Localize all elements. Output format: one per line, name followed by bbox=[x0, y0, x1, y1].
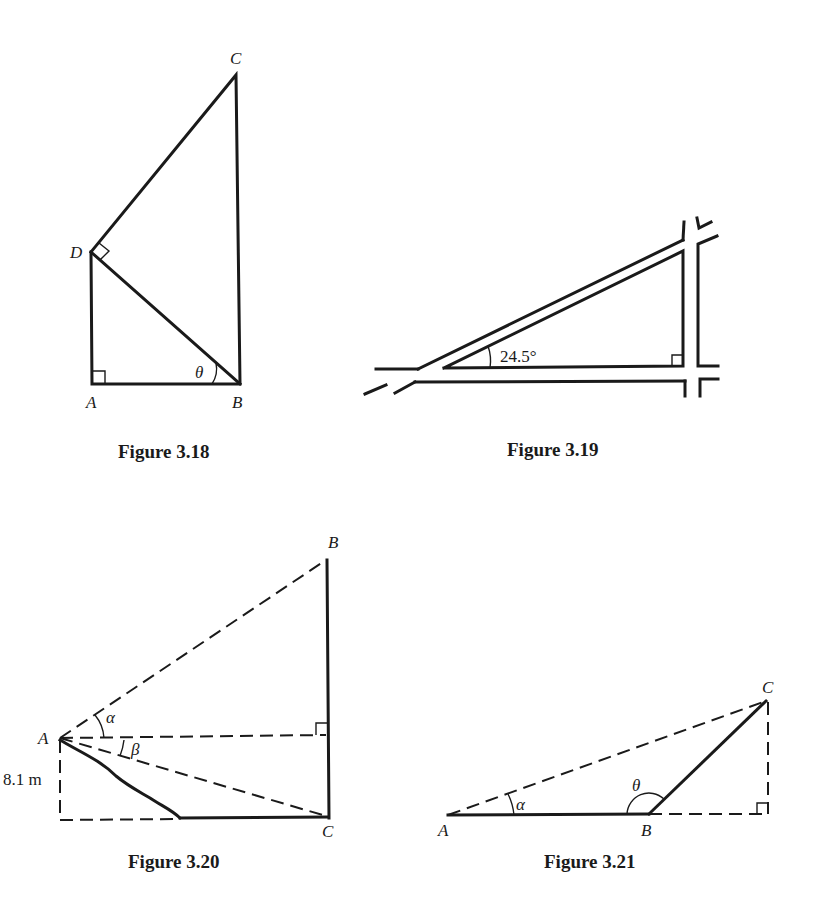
horizontal-line bbox=[60, 735, 326, 738]
vertex-label-c: C bbox=[322, 822, 334, 841]
angle-arc-theta bbox=[212, 363, 217, 384]
line-of-sight-ac bbox=[60, 738, 326, 816]
figures-canvas: C D A B θ Figure 3.18 24.5° Figure 3.19 bbox=[0, 0, 822, 900]
vertex-label-a: A bbox=[85, 393, 97, 412]
figure-3-19: 24.5° Figure 3.19 bbox=[365, 218, 718, 460]
quadrilateral-abcd bbox=[91, 75, 240, 384]
vertex-label-b: B bbox=[641, 821, 652, 840]
road-edge bbox=[683, 222, 684, 240]
vertex-label-c: C bbox=[230, 49, 242, 68]
ground-line bbox=[60, 819, 180, 820]
angle-label-24-5: 24.5° bbox=[500, 347, 537, 366]
figure-3-21: C A B α θ Figure 3.21 bbox=[437, 678, 774, 872]
tower-bc bbox=[327, 560, 329, 818]
road-edge bbox=[700, 379, 718, 396]
angle-label-theta: θ bbox=[632, 776, 640, 795]
figure-3-18: C D A B θ Figure 3.18 bbox=[69, 49, 243, 462]
vertex-label-b: B bbox=[328, 533, 339, 552]
figure-caption: Figure 3.21 bbox=[544, 851, 635, 872]
road-edge bbox=[395, 382, 415, 393]
height-label: 8.1 m bbox=[3, 770, 42, 789]
triangle-block bbox=[444, 251, 683, 368]
right-angle-marker bbox=[757, 803, 768, 814]
segment-ab bbox=[448, 814, 649, 815]
road-edge bbox=[697, 218, 711, 228]
figure-caption: Figure 3.19 bbox=[507, 439, 598, 460]
line-of-sight-ab bbox=[60, 560, 326, 738]
road-edge bbox=[365, 385, 386, 394]
right-angle-marker-a bbox=[92, 371, 105, 384]
vertex-label-d: D bbox=[69, 243, 83, 262]
vertical-road-right-edge bbox=[698, 236, 718, 366]
figure-caption: Figure 3.18 bbox=[118, 441, 209, 462]
angle-arc-beta bbox=[120, 740, 124, 756]
angle-arc-alpha bbox=[95, 715, 104, 738]
diagonal-road-upper-edge bbox=[418, 240, 683, 369]
vertex-label-a: A bbox=[437, 821, 449, 840]
vertex-label-c: C bbox=[762, 678, 774, 697]
angle-label-beta: β bbox=[130, 740, 140, 759]
angle-arc-alpha bbox=[508, 794, 514, 815]
right-angle-marker-d bbox=[99, 243, 109, 260]
vertex-label-a: A bbox=[37, 729, 49, 748]
horizontal-road-lower-edge bbox=[415, 381, 685, 382]
vertex-label-b: B bbox=[232, 393, 243, 412]
slope-terrain bbox=[60, 740, 180, 818]
figure-caption: Figure 3.20 bbox=[128, 851, 219, 872]
segment-bc bbox=[649, 701, 766, 814]
angle-label-theta: θ bbox=[195, 363, 203, 382]
right-angle-marker bbox=[672, 355, 683, 366]
figure-3-20: B A C α β 8.1 m Figure 3.20 bbox=[3, 533, 339, 872]
angle-label-alpha: α bbox=[106, 708, 116, 727]
angle-arc bbox=[488, 346, 491, 368]
angle-label-alpha: α bbox=[516, 795, 526, 814]
ground-solid bbox=[180, 817, 328, 818]
line-ac bbox=[448, 701, 766, 815]
diagonal-db bbox=[91, 252, 240, 384]
right-angle-marker bbox=[316, 723, 327, 735]
